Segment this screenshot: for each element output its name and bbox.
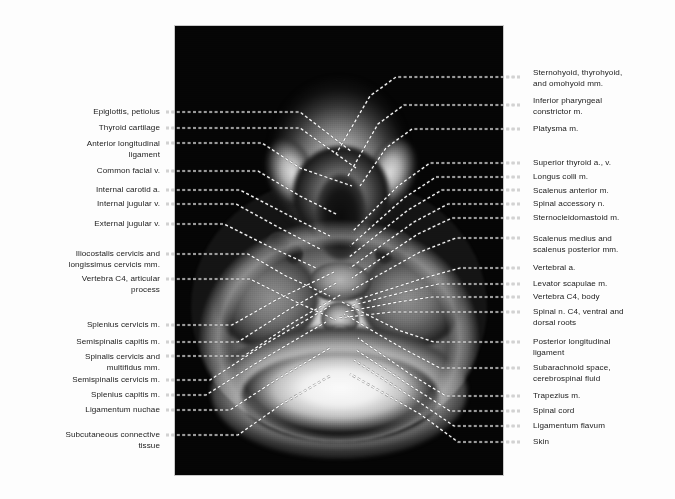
- label-platysma-m: Platysma m.: [533, 124, 578, 135]
- label-scalenus-anterior-m: Scalenus anterior m.: [533, 186, 609, 197]
- label-sternohyoid-thyrohyoid-and-omohyoid-mm: Sternohyoid, thyrohyoid, and omohyoid mm…: [533, 68, 622, 89]
- label-sternocleidomastoid-m: Sternocleidomastoid m.: [533, 213, 619, 224]
- label-spinalis-cervicis-and-multifidus-mm: Spinalis cervicis and multifidus mm.: [85, 352, 160, 373]
- figure-page: Epiglottis, petiolusThyroid cartilageAnt…: [0, 0, 675, 499]
- label-ligamentum-flavum: Ligamentum flavum: [533, 421, 605, 432]
- label-inferior-pharyngeal-constrictor-m: Inferior pharyngeal constrictor m.: [533, 96, 602, 117]
- label-spinal-n-c4-ventral-and-dorsal-roots: Spinal n. C4, ventral and dorsal roots: [533, 307, 624, 328]
- label-internal-carotid-a: Internal carotid a.: [96, 185, 160, 196]
- label-skin: Skin: [533, 437, 549, 448]
- label-vertebra-c4-body: Vertebra C4, body: [533, 292, 600, 303]
- mri-canvas: [175, 26, 503, 475]
- label-anterior-longitudinal-ligament: Anterior longitudinal ligament: [87, 139, 160, 160]
- label-iliocostalis-cervicis-and-longissimus-cervicis-m: Iliocostalis cervicis and longissimus ce…: [69, 249, 160, 270]
- label-semispinalis-cervicis-m: Semispinalis cervicis m.: [72, 375, 160, 386]
- label-superior-thyroid-a-v: Superior thyroid a., v.: [533, 158, 611, 169]
- label-internal-jugular-v: Internal jugular v.: [97, 199, 160, 210]
- label-splenius-cervicis-m: Splenius cervicis m.: [87, 320, 160, 331]
- label-longus-colli-m: Longus colli m.: [533, 172, 588, 183]
- label-vertebra-c4-articular-process: Vertebra C4, articular process: [82, 274, 160, 295]
- label-thyroid-cartilage: Thyroid cartilage: [99, 123, 160, 134]
- label-ligamentum-nuchae: Ligamentum nuchae: [85, 405, 160, 416]
- label-external-jugular-v: External jugular v.: [94, 219, 160, 230]
- mri-image-panel: [175, 26, 503, 475]
- label-scalenus-medius-and-scalenus-posterior-mm: Scalenus medius and scalenus posterior m…: [533, 234, 618, 255]
- label-spinal-cord: Spinal cord: [533, 406, 574, 417]
- mri-noise-texture: [175, 26, 503, 475]
- label-semispinalis-capitis-m: Semispinalis capitis m.: [76, 337, 160, 348]
- label-subcutaneous-connective-tissue: Subcutaneous connective tissue: [65, 430, 160, 451]
- label-trapezius-m: Trapezius m.: [533, 391, 580, 402]
- label-spinal-accessory-n: Spinal accessory n.: [533, 199, 605, 210]
- label-epiglottis-petiolus: Epiglottis, petiolus: [93, 107, 160, 118]
- label-levator-scapulae-m: Levator scapulae m.: [533, 279, 607, 290]
- label-vertebral-a: Vertebral a.: [533, 263, 575, 274]
- label-splenius-capitis-m: Splenius capitis m.: [91, 390, 160, 401]
- label-common-facial-v: Common facial v.: [97, 166, 160, 177]
- label-posterior-longitudinal-ligament: Posterior longitudinal ligament: [533, 337, 610, 358]
- label-subarachnoid-space-cerebrospinal-fluid: Subarachnoid space, cerebrospinal fluid: [533, 363, 611, 384]
